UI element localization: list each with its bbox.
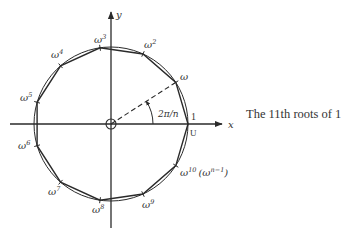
angle-label: 2π/n	[157, 109, 179, 119]
vertex-tick	[100, 45, 101, 51]
vertex-label-omega-4: ω4	[51, 48, 63, 60]
vertex-label-omega-5: ω5	[20, 91, 32, 103]
vertex-label-omega-9: ω9	[142, 198, 154, 210]
vertex-label-omega-2: ω2	[144, 38, 156, 50]
axes: xy	[10, 9, 234, 228]
label-one: 1	[191, 111, 196, 122]
angle-indicator: 2π/n	[111, 82, 179, 124]
vertex-label-omega-1: ω	[180, 71, 188, 82]
angle-arc	[146, 101, 153, 124]
label-U: U	[190, 128, 197, 138]
caption: The 11th roots of 1	[246, 107, 341, 122]
vertex-label-omega-6: ω6	[18, 139, 30, 151]
vertex-label-omega-10: ω10(ωn−1)	[180, 166, 228, 178]
vertex-label-omega-3: ω3	[94, 33, 106, 45]
vertex-label-omega-8: ω8	[92, 203, 104, 215]
vertex-label-omega-7: ω7	[48, 185, 61, 197]
y-axis-label: y	[115, 9, 122, 20]
x-axis-label: x	[228, 119, 234, 130]
